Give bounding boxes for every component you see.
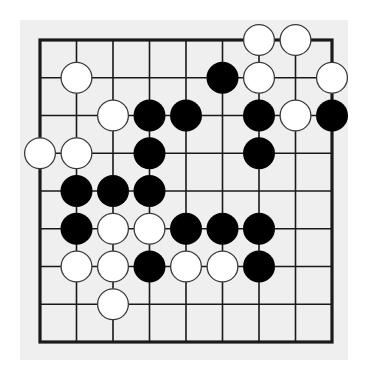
black-stone [134, 137, 166, 169]
black-stone [207, 62, 239, 94]
white-stone [98, 289, 129, 320]
black-stone [134, 100, 166, 132]
white-stone [171, 251, 202, 282]
black-stone [170, 100, 202, 132]
black-stone [134, 251, 166, 283]
black-stone [61, 213, 93, 245]
black-stone [243, 251, 275, 283]
white-stone [207, 251, 238, 282]
white-stone [244, 62, 275, 93]
white-stone [61, 62, 92, 93]
white-stone [98, 213, 129, 244]
white-stone [280, 100, 311, 131]
white-stone [244, 25, 275, 56]
white-stone [98, 100, 129, 131]
black-stone [243, 137, 275, 169]
black-stone [97, 175, 129, 207]
black-stone [243, 100, 275, 132]
black-stone [134, 175, 166, 207]
black-stone [61, 175, 93, 207]
white-stone [61, 138, 92, 169]
white-stone [25, 138, 56, 169]
black-stone [170, 213, 202, 245]
black-stone [316, 100, 348, 132]
white-stone [61, 251, 92, 282]
white-stone [317, 62, 348, 93]
white-stone [98, 251, 129, 282]
white-stone [134, 213, 165, 244]
black-stone [207, 213, 239, 245]
black-stone [243, 213, 275, 245]
white-stone [280, 25, 311, 56]
go-board[interactable] [0, 0, 369, 378]
